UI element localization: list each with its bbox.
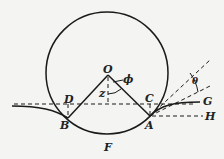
tangent-line-1 <box>150 60 210 116</box>
diagram-canvas: O ϕ z D C B A F G H θ <box>0 0 224 159</box>
circle-geometry-diagram: O ϕ z D C B A F G H θ <box>0 0 224 159</box>
label-g: G <box>203 95 212 108</box>
label-b: B <box>59 119 69 132</box>
label-c: C <box>145 92 154 105</box>
label-theta: θ <box>192 76 198 86</box>
label-h: H <box>204 110 216 123</box>
label-f: F <box>103 141 113 154</box>
label-a: A <box>144 119 154 132</box>
label-d: D <box>63 93 74 106</box>
label-o: O <box>103 63 113 76</box>
angle-arc-z <box>108 89 121 94</box>
label-z: z <box>98 87 106 100</box>
label-phi: ϕ <box>123 73 134 86</box>
